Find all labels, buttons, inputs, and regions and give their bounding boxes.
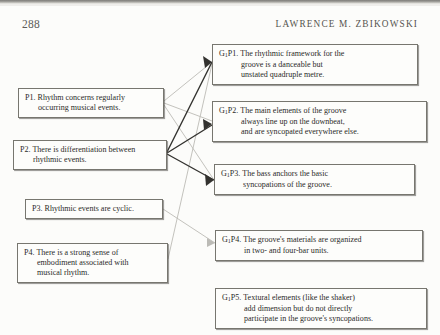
groove-premise-g1p3-line-1: G1P3. The bass anchors the basic [221,169,409,180]
groove-premise-g1p1-line-1: G1P1. The rhythmic framework for the [219,49,412,60]
premise-p4-line-2: embodiment associated with [24,258,162,268]
groove-premise-g1p2-line-1: G1P2. The main elements of the groove [219,106,421,117]
premise-p4-line-1: P4. There is a strong sense of [24,248,162,258]
groove-premise-box-g1p2: G1P2. The main elements of the groove al… [212,101,427,142]
groove-premise-g1p1-line-3: unstated quadruple metre. [219,70,412,80]
groove-premise-g1p2-line-2: always line up on the downbeat, [219,117,421,127]
groove-premise-g1p5-line-2: add dimension but do not directly [222,304,421,314]
premise-box-p3: P3. Rhythmic events are cyclic. [25,199,163,219]
groove-premise-g1p4-line-1: G1P4. The groove's materials are organiz… [222,235,417,246]
arrowhead-g1p4 [207,238,215,247]
link-p3-g1p4 [163,209,215,243]
g1p5-head: P5. Textural elements (like the shaker) [231,293,355,302]
groove-premise-g1p1-line-2: groove is a danceable but [219,60,412,70]
premise-box-p1: P1. Rhythm concerns regularly occurring … [18,88,164,118]
groove-premise-box-g1p1: G1P1. The rhythmic framework for the gro… [212,44,418,85]
g1p1-head: P1. The rhythmic framework for the [228,49,345,58]
groove-premise-g1p5-line-3: participate in the groove's syncopations… [222,314,421,324]
premise-p3-line-1: P3. Rhythmic events are cyclic. [32,204,157,214]
groove-premise-box-g1p5: G1P5. Textural elements (like the shaker… [215,288,427,329]
premise-box-p2: P2. There is differentiation between rhy… [13,140,167,170]
groove-premise-g1p3-line-2: syncopations of the groove. [221,180,409,190]
premise-p2-line-1: P2. There is differentiation between [20,145,161,155]
premise-p4-line-3: musical rhythm. [24,268,162,278]
groove-premise-g1p2-line-3: and are syncopated everywhere else. [219,127,421,137]
book-page: 288 LAWRENCE M. ZBIKOWSKI P1. Rhythm con… [0,0,440,335]
link-p1-g1p2 [164,103,212,121]
groove-premise-box-g1p3: G1P3. The bass anchors the basic syncopa… [214,164,415,195]
g1p2-head: P2. The main elements of the groove [228,106,347,115]
g1p4-head: P4. The groove's materials are organized [231,235,362,244]
groove-premise-g1p5-line-1: G1P5. Textural elements (like the shaker… [222,293,421,304]
premise-p1-line-2: occurring musical events. [25,103,158,113]
premise-p2-line-2: rhythmic events. [20,155,161,165]
link-p4-g1p1 [168,64,212,259]
premise-p1-line-1: P1. Rhythm concerns regularly [25,93,158,103]
groove-premise-g1p4-line-2: in two- and four-bar units. [222,246,417,256]
premise-box-p4: P4. There is a strong sense of embodimen… [17,243,168,283]
groove-premise-box-g1p4: G1P4. The groove's materials are organiz… [215,230,423,261]
arrowhead-g1p3 [205,174,214,186]
g1p3-head: P3. The bass anchors the basic [230,169,328,178]
